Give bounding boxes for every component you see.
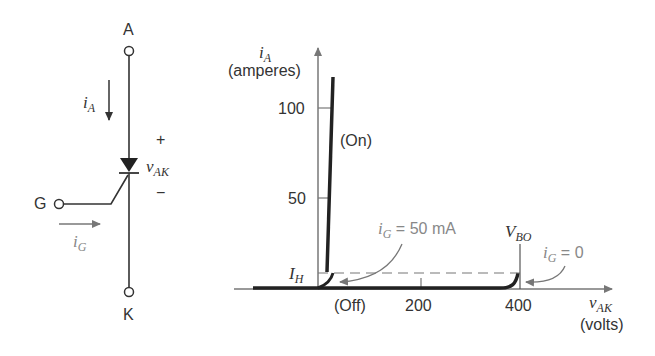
plus-sign: +: [156, 131, 165, 148]
y-tick-label-50: 50: [288, 190, 306, 207]
cathode-terminal: [125, 288, 134, 297]
x-axis-units: (volts): [580, 316, 624, 333]
gate-wire: [64, 175, 129, 204]
gate-0-pointer-arrow-icon: [526, 266, 565, 282]
breakover-voltage-label: VBO: [505, 222, 532, 244]
gate-terminal: [55, 200, 64, 209]
gate-50ma-label: iG = 50 mA: [378, 219, 456, 241]
gate-50ma-pointer-arrow-icon: [340, 244, 402, 282]
forward-blocking-curve: [318, 273, 518, 288]
minus-sign: −: [156, 184, 165, 201]
gate-0-label: iG = 0: [543, 243, 584, 265]
x-tick-label-400: 400: [505, 297, 532, 314]
diode-triangle-icon: [120, 158, 138, 172]
x-tick-label-200: 200: [405, 297, 432, 314]
thyristor-diagram: A K G iA iG + vAK − 100 50 200: [0, 0, 655, 356]
iv-characteristic-chart: 100 50 200 400 iA (amperes) vAK (volts) …: [228, 43, 624, 333]
cathode-label: K: [123, 306, 134, 323]
gate-50ma-curve: [318, 273, 333, 288]
scr-schematic: A K G iA iG + vAK −: [34, 21, 170, 323]
on-state-label: (On): [340, 132, 372, 149]
gate-label: G: [34, 195, 46, 212]
y-tick-label-100: 100: [278, 100, 305, 117]
x-axis-label: vAK: [589, 293, 613, 315]
on-state-curve: [327, 77, 333, 272]
holding-current-label: IH: [288, 264, 305, 286]
voltage-label: vAK: [146, 157, 170, 179]
y-axis-units: (amperes): [228, 62, 301, 79]
anode-label: A: [123, 21, 134, 38]
anode-current-label: iA: [83, 93, 96, 115]
anode-terminal: [125, 47, 134, 56]
off-state-label: (Off): [334, 297, 366, 314]
gate-current-label: iG: [73, 232, 87, 254]
